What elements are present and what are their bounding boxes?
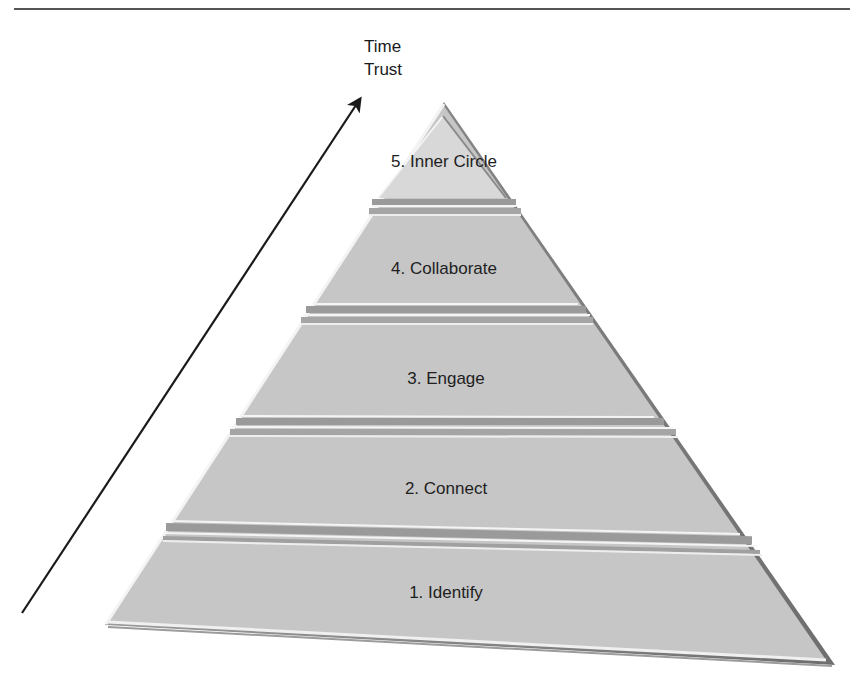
axis-label-time: Time	[364, 36, 401, 58]
tier-divider-5-4	[369, 199, 521, 215]
tier-label-engage: 3. Engage	[407, 369, 485, 389]
axis-label-trust: Trust	[364, 59, 402, 81]
tier-label-connect: 2. Connect	[405, 479, 487, 499]
tier-label-inner-circle: 5. Inner Circle	[391, 152, 497, 172]
tier-label-identify: 1. Identify	[409, 583, 483, 603]
tier-label-collaborate: 4. Collaborate	[391, 259, 497, 279]
pyramid-diagram	[0, 0, 863, 684]
tier-divider-4-3	[301, 304, 593, 324]
